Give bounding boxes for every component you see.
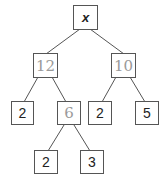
tree-node-left-right: 6 (57, 101, 81, 125)
tree-node-root: x (73, 5, 98, 30)
tree-node-left-left: 2 (11, 101, 34, 125)
tree-node-right-right: 5 (135, 101, 159, 125)
tree-node-left: 12 (33, 53, 58, 78)
tree-node-left-right-left: 2 (34, 150, 58, 174)
tree-node-right: 10 (111, 53, 136, 78)
tree-node-right-left: 2 (88, 101, 112, 125)
tree-node-left-right-right: 3 (80, 150, 104, 174)
